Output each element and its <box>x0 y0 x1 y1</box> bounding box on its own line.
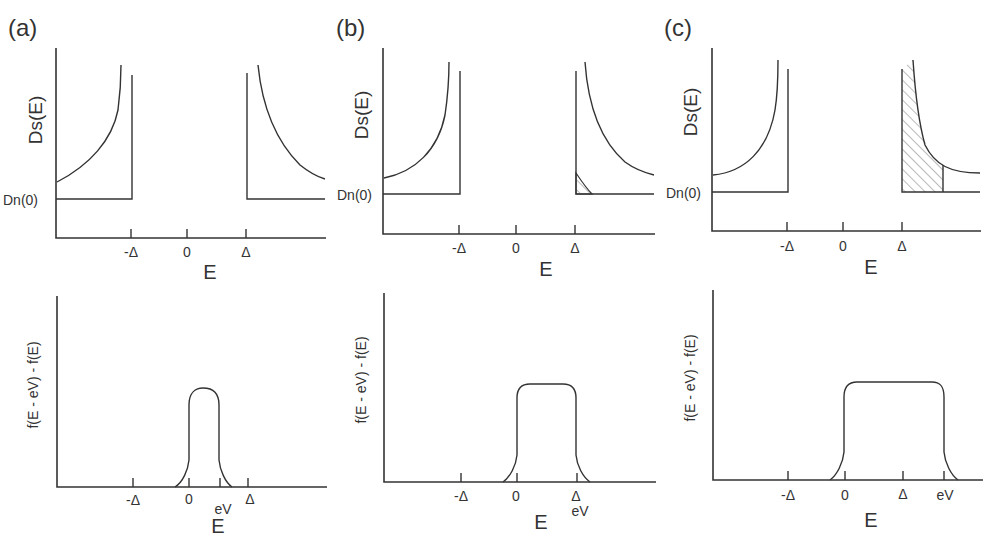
tick-label: Δ <box>245 491 254 507</box>
panel-label: (a) <box>8 14 37 41</box>
dn0-label: Dn(0) <box>337 187 372 203</box>
y-axis-label: Ds(E) <box>25 96 46 145</box>
fermi-plot: -Δ 0 Δ eV E f(E - eV) - f(E) <box>682 290 983 531</box>
tick-label: 0 <box>841 487 849 503</box>
axes <box>57 296 327 487</box>
shaded-region <box>902 60 943 192</box>
tick-label: -Δ <box>124 244 138 260</box>
panel-label: (b) <box>336 14 365 41</box>
axes <box>56 48 326 238</box>
axes <box>712 48 981 231</box>
y-axis-label: f(E - eV) - f(E) <box>353 336 369 423</box>
axes <box>383 48 655 234</box>
fermi-plot: -Δ 0 Δ eV E f(E - eV) - f(E) <box>353 293 656 533</box>
figure: (a) -Δ 0 Δ E Ds(E) Dn(0) - <box>0 0 998 552</box>
tick-label: -Δ <box>454 488 468 504</box>
x-axis-label: E <box>211 515 224 537</box>
y-axis-label: f(E - eV) - f(E) <box>25 341 41 428</box>
x-axis-label: E <box>539 258 552 280</box>
tick-label: eV <box>936 487 954 503</box>
tick-label: -Δ <box>452 240 466 256</box>
fermi-plot: -Δ 0 eV Δ E f(E - eV) - f(E) <box>25 296 327 537</box>
panel-c: (c) -Δ 0 Δ E Ds(E) Dn(0) -Δ <box>664 14 983 531</box>
x-axis-label: E <box>203 261 216 283</box>
tick-label: -Δ <box>781 487 795 503</box>
tick-label: Δ <box>241 244 250 260</box>
panel-a: (a) -Δ 0 Δ E Ds(E) Dn(0) - <box>3 14 327 537</box>
panel-b: (b) -Δ 0 Δ E Ds(E) Dn(0) -Δ 0 Δ <box>336 14 656 533</box>
dos-plot: -Δ 0 Δ E Ds(E) Dn(0) <box>337 48 655 280</box>
dos-plot: -Δ 0 Δ E Ds(E) Dn(0) <box>666 48 981 278</box>
x-axis-label: E <box>864 509 877 531</box>
tick-label: Δ <box>571 488 580 504</box>
tick-label: Δ <box>570 240 579 256</box>
tick-label: Δ <box>897 238 906 254</box>
dn0-label: Dn(0) <box>3 192 38 208</box>
x-axis-label: E <box>864 256 877 278</box>
panel-label: (c) <box>664 14 692 41</box>
shaded-region <box>576 173 592 194</box>
tick-label: 0 <box>512 240 520 256</box>
tick-label: -Δ <box>780 238 794 254</box>
tick-label: 0 <box>183 244 191 260</box>
tick-label: 0 <box>185 491 193 507</box>
y-axis-label: f(E - eV) - f(E) <box>682 334 698 421</box>
x-axis-label: E <box>534 511 547 533</box>
tick-label: Δ <box>898 486 907 502</box>
tick-label: -Δ <box>126 492 140 508</box>
tick-label: eV <box>571 503 589 519</box>
tick-label: 0 <box>512 488 520 504</box>
tick-label: 0 <box>839 238 847 254</box>
y-axis-label: Ds(E) <box>680 88 701 137</box>
dos-plot: -Δ 0 Δ E Ds(E) Dn(0) <box>3 48 326 283</box>
y-axis-label: Ds(E) <box>351 91 372 140</box>
dn0-label: Dn(0) <box>666 185 701 201</box>
